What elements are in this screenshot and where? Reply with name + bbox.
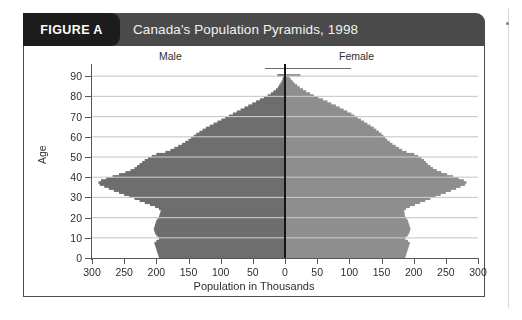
figure-badge: FIGURE A <box>23 13 120 46</box>
x-axis-title: Population in Thousands <box>24 280 484 292</box>
y-axis-tick-label: 10 <box>58 232 82 244</box>
y-axis-tick <box>85 197 91 198</box>
y-axis-tick-label: 50 <box>58 151 82 163</box>
x-axis-tick <box>317 259 318 264</box>
y-axis-tick-label: 90 <box>58 70 82 82</box>
y-axis-tick <box>85 76 91 77</box>
y-axis-tick-label: 60 <box>58 131 82 143</box>
population-pyramid-chart: Male Female 0102030405060708090 30025020… <box>24 46 484 296</box>
y-axis-tick <box>85 96 91 97</box>
y-axis-tick <box>85 258 91 259</box>
female-side-label: Female <box>339 50 374 62</box>
y-axis-tick <box>85 157 91 158</box>
y-axis-line <box>91 64 92 260</box>
top-reference-rule <box>265 68 351 69</box>
x-axis-tick <box>221 259 222 264</box>
y-axis-tick-label: 70 <box>58 111 82 123</box>
y-axis-title: Age <box>36 145 48 164</box>
page-edge-rule <box>508 8 509 308</box>
y-axis-tick-label: 20 <box>58 212 82 224</box>
figure-title: Canada's Population Pyramids, 1998 <box>133 13 358 46</box>
x-axis-tick <box>156 259 157 264</box>
x-axis-tick <box>382 259 383 264</box>
x-axis-tick <box>189 259 190 264</box>
x-axis-tick-label: 300 <box>458 266 498 278</box>
x-axis-tick <box>446 259 447 264</box>
figure-header-band: FIGURE A Canada's Population Pyramids, 1… <box>23 13 485 46</box>
x-axis-tick <box>124 259 125 264</box>
figure-container: FIGURE A Canada's Population Pyramids, 1… <box>23 13 485 298</box>
x-axis-tick <box>414 259 415 264</box>
figure-panel: Male Female 0102030405060708090 30025020… <box>23 46 485 297</box>
y-axis-tick-label: 30 <box>58 191 82 203</box>
x-axis-tick <box>285 259 286 264</box>
y-axis-tick-label: 0 <box>58 252 82 264</box>
x-axis-tick <box>92 259 93 264</box>
x-axis-tick <box>478 259 479 264</box>
figure-badge-label: FIGURE A <box>40 23 102 37</box>
y-axis-tick <box>85 177 91 178</box>
x-axis-tick <box>349 259 350 264</box>
y-axis-tick <box>85 218 91 219</box>
y-axis-tick-label: 40 <box>58 171 82 183</box>
y-axis-tick <box>85 137 91 138</box>
page-edge-dot <box>506 22 509 25</box>
male-side-label: Male <box>159 50 182 62</box>
center-axis-line <box>284 64 286 259</box>
x-axis-tick <box>253 259 254 264</box>
y-axis-tick <box>85 117 91 118</box>
y-axis-tick-label: 80 <box>58 90 82 102</box>
y-axis-tick <box>85 238 91 239</box>
